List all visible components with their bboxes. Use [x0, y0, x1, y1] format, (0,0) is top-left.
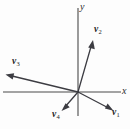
- vector-v3-arrowhead: [6, 73, 15, 79]
- vector-label-v1-subscript: 1: [116, 111, 119, 118]
- vector-label-v3: v3: [12, 57, 20, 67]
- vector-v4: [62, 92, 79, 111]
- vector-v2: [78, 40, 95, 92]
- vector-label-v2: v2: [94, 25, 102, 35]
- x-axis-label: x: [122, 86, 126, 96]
- y-axis-label: y: [80, 2, 84, 12]
- vector-label-v1: v1: [112, 108, 120, 118]
- vector-v4-arrowhead: [62, 103, 70, 111]
- axes-group: [3, 8, 121, 116]
- vector-label-v3-subscript: 3: [16, 60, 19, 67]
- vector-v3: [6, 73, 79, 92]
- vector-label-v4: v4: [52, 110, 60, 120]
- vector-v2-shaft: [78, 45, 92, 93]
- vector-label-v4-subscript: 4: [56, 113, 59, 120]
- vector-v1: [78, 92, 114, 111]
- vector-diagram-figure: x y v1 v2 v3 v4: [0, 0, 130, 129]
- vector-label-v2-subscript: 2: [98, 28, 101, 35]
- vector-v2-arrowhead: [88, 40, 95, 49]
- vector-v3-shaft: [10, 76, 78, 93]
- vector-v1-shaft: [78, 92, 110, 109]
